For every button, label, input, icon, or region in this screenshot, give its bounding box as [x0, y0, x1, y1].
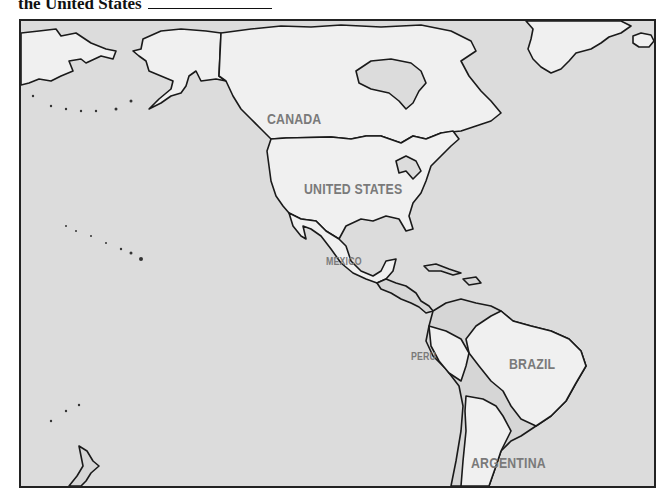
- label-mexico: MEXICO: [326, 256, 362, 267]
- land-siberia: [21, 29, 116, 85]
- label-canada: CANADA: [267, 111, 321, 127]
- prompt-text: the United States: [18, 0, 142, 13]
- land-cuba: [424, 264, 461, 275]
- land-new-zealand: [69, 446, 99, 486]
- answer-blank[interactable]: [148, 0, 272, 9]
- americas-map: CANADA UNITED STATES MEXICO PERU BRAZIL …: [19, 19, 656, 488]
- question-prompt: the United States: [18, 0, 272, 14]
- label-brazil: BRAZIL: [509, 356, 555, 372]
- label-united-states: UNITED STATES: [304, 181, 402, 197]
- land-alaska: [133, 29, 226, 109]
- land-iceland: [633, 33, 654, 47]
- land-greenland: [526, 21, 631, 73]
- map-svg: [21, 21, 654, 486]
- label-argentina: ARGENTINA: [471, 455, 546, 471]
- islands: [32, 95, 143, 422]
- land-central-america: [377, 279, 433, 313]
- label-peru: PERU: [411, 351, 436, 362]
- land-hispaniola: [463, 277, 481, 285]
